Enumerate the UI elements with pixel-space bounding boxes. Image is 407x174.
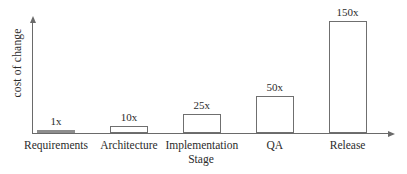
cost-of-change-bar-chart: cost of change 1xRequirements10xArchitec… (0, 0, 407, 174)
y-axis-label: cost of change (11, 28, 23, 97)
x-axis-line (32, 133, 389, 134)
category-label-implementation: Implementation (165, 138, 238, 152)
bar-implementation (183, 114, 221, 133)
bar-value-label-150x: 150x (337, 6, 359, 19)
bar-value-label-10x: 10x (121, 111, 138, 124)
category-label-requirements: Requirements (24, 138, 88, 152)
category-label-architecture: Architecture (100, 138, 157, 152)
y-axis-arrow-icon (30, 16, 36, 23)
category-label-release: Release (330, 138, 366, 152)
bar-architecture (110, 126, 148, 133)
bar-release (329, 21, 367, 133)
y-axis-line (32, 22, 33, 133)
category-label-qa: QA (266, 138, 283, 152)
bar-value-label-25x: 25x (194, 99, 211, 112)
bar-requirements (37, 130, 75, 133)
bar-value-label-1x: 1x (51, 115, 62, 128)
bar-qa (256, 96, 294, 133)
x-axis-arrow-icon (388, 131, 395, 137)
x-axis-title: Stage (188, 152, 214, 166)
bar-value-label-50x: 50x (266, 81, 283, 94)
